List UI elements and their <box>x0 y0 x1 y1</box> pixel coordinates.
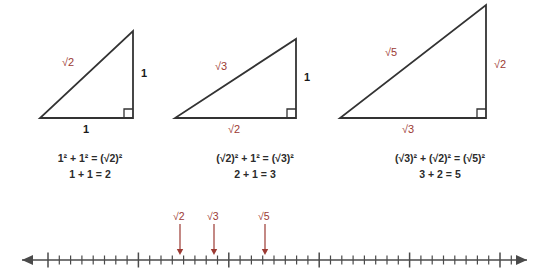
number-line-marker-arrowhead-2 <box>262 249 268 255</box>
triangle-1-equation-block: 1² + 1² = (√2)² 1 + 1 = 2 <box>20 150 160 183</box>
triangle-2-shape <box>175 39 296 118</box>
number-line-marker-label-sqrt5: √5 <box>258 211 270 222</box>
triangle-1-horizontal-leg-label: 1 <box>83 124 89 135</box>
triangle-1-vertical-leg-label: 1 <box>141 68 147 79</box>
triangle-3-equation-block: (√3)² + (√2)² = (√5)² 3 + 2 = 5 <box>350 150 530 183</box>
number-line-marker-arrowhead-1 <box>211 249 217 255</box>
number-line-left-arrowhead <box>22 255 33 265</box>
triangle-3-equation-line2: 3 + 2 = 5 <box>350 166 530 182</box>
triangle-3-right-angle-marker <box>477 109 486 118</box>
triangle-3-shape <box>340 5 486 118</box>
triangle-2-horizontal-leg-label: √2 <box>228 124 240 135</box>
triangle-1-equation-line1: 1² + 1² = (√2)² <box>20 150 160 166</box>
number-line-marker-label-sqrt2: √2 <box>173 211 185 222</box>
triangle-3-horizontal-leg-label: √3 <box>402 124 414 135</box>
triangle-2-hypotenuse-label: √3 <box>215 61 227 72</box>
triangle-3-vertical-leg-label: √2 <box>494 59 506 70</box>
figure-canvas: √2 1 1 √3 1 √2 √5 √2 √3 1² + 1² = (√2)² … <box>0 0 536 279</box>
triangle-2-right-angle-marker <box>287 109 296 118</box>
triangle-1-right-angle-marker <box>124 109 133 118</box>
triangle-1-shape <box>40 31 133 118</box>
number-line-ticks <box>48 253 511 268</box>
number-line-right-arrowhead <box>516 255 527 265</box>
number-line-marker-arrows <box>177 224 268 255</box>
triangle-2-vertical-leg-label: 1 <box>304 72 310 83</box>
triangle-2-equation-line2: 2 + 1 = 3 <box>175 166 335 182</box>
number-line-marker-arrowhead-0 <box>177 249 183 255</box>
triangles-and-numberline-graphics <box>0 0 536 279</box>
triangle-3-equation-line1: (√3)² + (√2)² = (√5)² <box>350 150 530 166</box>
triangle-1-hypotenuse-label: √2 <box>62 57 74 68</box>
triangle-2-equation-block: (√2)² + 1² = (√3)² 2 + 1 = 3 <box>175 150 335 183</box>
number-line-marker-label-sqrt3: √3 <box>207 211 219 222</box>
triangle-2-equation-line1: (√2)² + 1² = (√3)² <box>175 150 335 166</box>
triangle-3-hypotenuse-label: √5 <box>385 47 397 58</box>
triangle-1-equation-line2: 1 + 1 = 2 <box>20 166 160 182</box>
